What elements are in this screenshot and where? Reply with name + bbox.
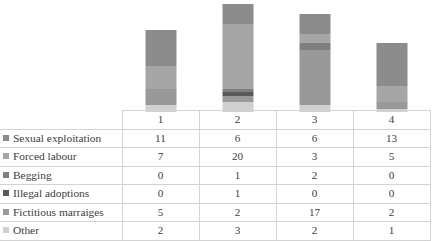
bar-slot (199, 2, 276, 112)
bar-segment (145, 89, 176, 105)
table-cell: 13 (353, 129, 430, 148)
table-cell: 0 (353, 185, 430, 204)
table-cell: 3 (276, 148, 353, 167)
legend-entry: Begging (0, 166, 122, 185)
table-cell: 7 (122, 148, 199, 167)
table-cell: 1 (199, 166, 276, 185)
bar-segment (299, 14, 330, 34)
table-cell: 2 (276, 222, 353, 241)
legend-swatch-icon (3, 153, 9, 159)
legend-label: Fictitious marraiges (13, 206, 104, 218)
table-cell: 0 (122, 185, 199, 204)
stacked-bar (145, 30, 176, 112)
stacked-bar (222, 4, 253, 112)
table-cell: 5 (353, 148, 430, 167)
bar-segment (145, 30, 176, 66)
table-cell: 1 (353, 222, 430, 241)
bar-segment (299, 50, 330, 106)
table-cell: 0 (122, 166, 199, 185)
legend-swatch-icon (3, 190, 9, 196)
bar-segment (299, 34, 330, 44)
table-cell: 3 (199, 222, 276, 241)
stacked-bar (376, 43, 407, 112)
bar-segment (222, 24, 253, 89)
table-cell: 0 (353, 166, 430, 185)
bar-slot (276, 2, 353, 112)
bar-slot (122, 2, 199, 112)
table-column-header: 3 (276, 111, 353, 130)
table-cell: 2 (199, 203, 276, 222)
legend-entry: Fictitious marraiges (0, 203, 122, 222)
legend-label: Illegal adoptions (13, 187, 89, 199)
legend-entry: Sexual exploitation (0, 129, 122, 148)
legend-entry: Forced labour (0, 148, 122, 167)
bar-segment (376, 43, 407, 86)
stacked-bar (299, 14, 330, 112)
table-row: Illegal adoptions0100 (0, 185, 430, 204)
bar-segment (222, 4, 253, 24)
table-column-header: 1 (122, 111, 199, 130)
plot-area (122, 2, 430, 112)
bar-segment (145, 66, 176, 89)
table-cell: 6 (199, 129, 276, 148)
legend-swatch-icon (3, 135, 9, 141)
data-table: 1234Sexual exploitation116613Forced labo… (0, 110, 431, 241)
table-row: Forced labour72035 (0, 148, 430, 167)
stacked-column-chart-with-data-table: 1234Sexual exploitation116613Forced labo… (0, 0, 447, 241)
table-row: Fictitious marraiges52172 (0, 203, 430, 222)
legend-label: Sexual exploitation (13, 132, 101, 144)
table-cell: 5 (122, 203, 199, 222)
legend-label: Forced labour (13, 150, 77, 162)
table-cell: 6 (276, 129, 353, 148)
table-cell: 2 (276, 166, 353, 185)
table-cell: 2 (353, 203, 430, 222)
legend-swatch-icon (3, 172, 9, 178)
legend-label: Other (13, 224, 39, 236)
table-cell: 17 (276, 203, 353, 222)
bar-slot (353, 2, 430, 112)
table-cell: 1 (199, 185, 276, 204)
legend-swatch-icon (3, 209, 9, 215)
legend-entry: Other (0, 222, 122, 241)
table-header-row: 1234 (0, 111, 430, 130)
legend-label: Begging (13, 169, 52, 181)
table-cell: 20 (199, 148, 276, 167)
table-row: Begging0120 (0, 166, 430, 185)
table-column-header: 4 (353, 111, 430, 130)
table-cell: 0 (276, 185, 353, 204)
legend-swatch-icon (3, 227, 9, 233)
bar-segment (376, 86, 407, 102)
table-cell: 2 (122, 222, 199, 241)
table-column-header: 2 (199, 111, 276, 130)
legend-entry: Illegal adoptions (0, 185, 122, 204)
table-row: Other2321 (0, 222, 430, 241)
table-cell: 11 (122, 129, 199, 148)
table-corner-cell (0, 111, 122, 130)
table-row: Sexual exploitation116613 (0, 129, 430, 148)
